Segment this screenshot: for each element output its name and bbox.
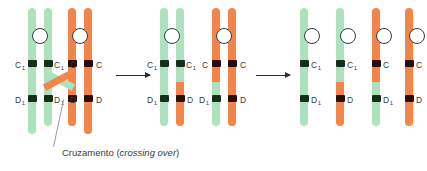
gene-band-d-chromatid-4: [405, 95, 414, 102]
allele-label-d1-left-paternal: D1: [199, 96, 209, 105]
chromatid-1: [300, 8, 308, 126]
gene-band-d1-chromatid-2: [44, 95, 53, 102]
allele-label-d-right: D: [96, 96, 102, 105]
centromere-chromatid-4: [409, 28, 425, 44]
centromere-maternal: [164, 28, 180, 44]
caption-leader-line: [53, 100, 64, 147]
chromatid-4: [405, 8, 413, 126]
allele-label-d1-chromatid-1: D1: [311, 96, 321, 105]
chromatid-3-lower-segment: [372, 82, 380, 126]
gene-band-d1-chromatid-1: [28, 95, 37, 102]
chromatid-1-body: [300, 8, 308, 126]
chromatid-4: [84, 8, 92, 134]
gene-band-c-chromatid-4: [405, 60, 414, 67]
allele-label-c1-right: C1: [54, 61, 64, 70]
gene-band-d-chromatid-4: [228, 95, 237, 102]
chromatid-1: [28, 8, 36, 134]
centromere-maternal: [32, 28, 48, 44]
gene-band-c-chromatid-4: [84, 60, 93, 67]
caption-crossing-over: Cruzamento (crossing over): [62, 148, 179, 158]
gene-band-c-chromatid-3: [372, 60, 381, 67]
chromatid-4: [228, 8, 236, 126]
allele-label-d1-left: D1: [147, 96, 157, 105]
allele-label-c-chromatid-3: C: [383, 61, 389, 70]
chromatid-3-upper-segment: [372, 8, 380, 82]
allele-label-d-chromatid-4: D: [416, 96, 422, 105]
chromatid-2: [336, 8, 344, 126]
allele-label-c1-left: C1: [147, 61, 157, 70]
allele-label-d-right-paternal: D: [240, 96, 246, 105]
gene-band-c-chromatid-3: [212, 60, 221, 67]
allele-label-c-right: C: [240, 61, 246, 70]
chromatid-2-lower-segment: [336, 82, 344, 126]
centromere-chromatid-3: [376, 28, 392, 44]
chromatid-3: [372, 8, 380, 126]
chromatid-4-body: [84, 8, 92, 134]
chromatid-3-lower-segment: [212, 82, 220, 126]
chromatid-4-body: [405, 8, 413, 126]
allele-label-c1-left: C1: [15, 61, 25, 70]
gene-band-c1-chromatid-1: [28, 60, 37, 67]
centromere-paternal: [72, 28, 88, 44]
allele-label-d-right: D: [187, 96, 193, 105]
gene-band-c1-chromatid-2: [336, 60, 345, 67]
allele-label-c-left: C: [70, 61, 76, 70]
allele-label-c1-chromatid-2: C1: [347, 61, 357, 70]
gene-band-d-chromatid-4: [84, 95, 93, 102]
gene-band-d1-chromatid-3: [212, 95, 221, 102]
chromatid-4-body: [228, 8, 236, 126]
allele-label-c1-right: C1: [186, 61, 196, 70]
gene-band-c1-chromatid-1: [160, 60, 169, 67]
allele-label-d-chromatid-2: D: [347, 96, 353, 105]
chromatid-2: [44, 8, 52, 126]
allele-label-c-left: C: [202, 61, 208, 70]
chromatid-2-body: [44, 8, 52, 126]
chromatid-3: [212, 8, 220, 126]
gene-band-c1-chromatid-2: [44, 60, 53, 67]
allele-label-c-right: C: [96, 61, 102, 70]
gene-band-d1-chromatid-1: [300, 95, 309, 102]
allele-label-c1-chromatid-1: C1: [311, 61, 321, 70]
gene-band-c1-chromatid-2: [176, 60, 185, 67]
allele-label-d-left: D: [70, 96, 76, 105]
arrow-stage2-to-stage3: [256, 75, 290, 76]
gene-band-d-chromatid-2: [176, 95, 185, 102]
centromere-chromatid-2: [340, 28, 356, 44]
allele-label-c-chromatid-4: C: [416, 61, 422, 70]
chromatid-2-lower-segment: [176, 82, 184, 126]
chromatid-3-upper-segment: [212, 8, 220, 82]
crossing-over-diagram: C1 C1 C C D1 D1 D D Cruzamento (crossing…: [0, 0, 427, 171]
arrow-stage1-to-stage2: [116, 75, 150, 76]
centromere-paternal: [216, 28, 232, 44]
gene-band-c1-chromatid-1: [300, 60, 309, 67]
chromatid-2-upper-segment: [336, 8, 344, 82]
chromatid-1: [160, 8, 168, 126]
allele-label-d1-left: D1: [15, 96, 25, 105]
allele-label-d1-chromatid-3: D1: [383, 96, 393, 105]
chromatid-1-body: [28, 8, 36, 134]
gene-band-d-chromatid-2: [336, 95, 345, 102]
chromatid-2-upper-segment: [176, 8, 184, 82]
gene-band-d1-chromatid-1: [160, 95, 169, 102]
gene-band-c-chromatid-4: [228, 60, 237, 67]
chromatid-2: [176, 8, 184, 126]
gene-band-d1-chromatid-3: [372, 95, 381, 102]
chromatid-1-body: [160, 8, 168, 126]
centromere-chromatid-1: [304, 28, 320, 44]
